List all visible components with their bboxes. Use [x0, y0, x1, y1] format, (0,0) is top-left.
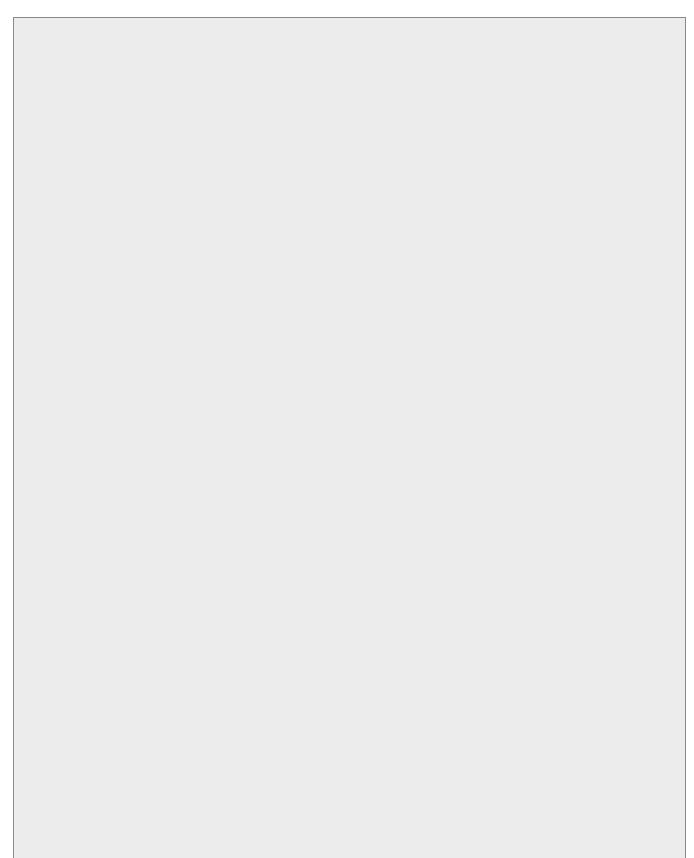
figure-frame	[13, 17, 686, 858]
